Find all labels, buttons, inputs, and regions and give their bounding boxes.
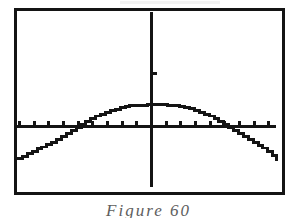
figure-caption: Figure 60 [0,202,297,218]
parabola-plot [17,11,282,192]
figure-caption-text: Figure 60 [106,202,191,218]
x-axis-tick [194,121,197,126]
x-axis-tick [18,121,21,126]
curve-segment [147,103,158,106]
x-axis-tick [165,121,168,126]
x-axis-tick [267,121,270,126]
curve-segment [129,104,138,107]
x-axis-line [17,125,276,128]
plot-area [17,11,282,192]
scan-artifact [120,1,220,4]
x-axis-tick [238,121,241,126]
figure-root: Figure 60 [0,0,297,218]
x-axis-tick [135,121,138,126]
curve-segment [275,154,278,161]
x-axis-tick [77,121,80,126]
x-axis-tick [106,121,109,126]
x-axis-tick [253,121,256,126]
x-axis-tick [209,121,212,126]
curve-layer [17,103,278,161]
x-axis-tick [47,121,50,126]
calculator-screen-frame [14,8,285,195]
x-axis-tick [62,121,65,126]
x-axis-tick [33,121,36,126]
x-axis-tick [121,121,124,126]
curve-segment [167,104,176,107]
x-axis-tick [179,121,182,126]
y-axis-line [150,12,153,187]
y-axis-tick [153,72,157,75]
axis-layer [17,12,276,187]
